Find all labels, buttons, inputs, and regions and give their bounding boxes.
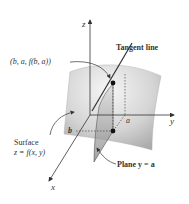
x-axis-label: x: [50, 182, 55, 192]
surface-label: Surface: [14, 138, 39, 147]
tick-label-b: b: [68, 126, 72, 135]
z-axis-label: z: [81, 19, 86, 29]
point-base: [111, 129, 116, 134]
partial-derivative-diagram: z y x a b (b, a, f(b, a)) Tangent line S…: [0, 0, 189, 204]
y-axis-label: y: [169, 116, 174, 126]
tick-label-a: a: [126, 116, 130, 125]
point-on-surface: [111, 81, 116, 86]
plane-label: Plane y = a: [117, 160, 155, 169]
tangent-line-label: Tangent line: [116, 43, 159, 52]
point-label: (b, a, f(b, a)): [10, 57, 51, 66]
surface-equation-label: z = f(x, y): [13, 148, 46, 157]
